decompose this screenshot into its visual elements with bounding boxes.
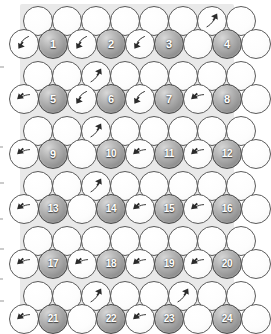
numbered-circle-1[interactable]: 1: [38, 29, 68, 59]
numbered-circle-15[interactable]: 15: [154, 194, 184, 224]
circle-number-label: 15: [164, 204, 175, 214]
circle-number-label: 14: [106, 204, 117, 214]
circle-with-arrow-left[interactable]: [9, 194, 39, 224]
numbered-circle-11[interactable]: 11: [154, 139, 184, 169]
empty-circle[interactable]: [67, 194, 97, 224]
margin-mark: [0, 182, 4, 184]
numbered-circle-4[interactable]: 4: [212, 29, 242, 59]
numbered-circle-18[interactable]: 18: [96, 249, 126, 279]
circle-with-arrow-down-left[interactable]: [125, 84, 155, 114]
arrow-left-icon: [184, 85, 212, 113]
circle-number-label: 24: [222, 314, 233, 324]
arrow-left-icon: [10, 140, 38, 168]
circle-with-arrow-left[interactable]: [183, 194, 213, 224]
numbered-circle-3[interactable]: 3: [154, 29, 184, 59]
arrow-left-icon: [126, 305, 154, 333]
circle-number-label: 22: [106, 314, 117, 324]
numbered-circle-14[interactable]: 14: [96, 194, 126, 224]
empty-circle[interactable]: [241, 139, 271, 169]
numbered-circle-16[interactable]: 16: [212, 194, 242, 224]
circle-with-arrow-left[interactable]: [183, 249, 213, 279]
circle-number-label: 11: [164, 149, 174, 159]
circle-number-label: 17: [48, 259, 59, 269]
circle-number-label: 5: [50, 94, 56, 105]
margin-mark: [0, 300, 4, 302]
circle-with-arrow-left[interactable]: [9, 84, 39, 114]
numbered-circle-24[interactable]: 24: [212, 304, 242, 334]
numbered-circle-10[interactable]: 10: [96, 139, 126, 169]
circle-number-label: 1: [50, 39, 56, 50]
numbered-circle-13[interactable]: 13: [38, 194, 68, 224]
empty-circle[interactable]: [241, 84, 271, 114]
empty-circle[interactable]: [183, 29, 213, 59]
arrow-down-left-icon: [68, 30, 96, 58]
numbered-circle-20[interactable]: 20: [212, 249, 242, 279]
numbered-circle-19[interactable]: 19: [154, 249, 184, 279]
circle-number-label: 13: [48, 204, 59, 214]
circle-with-arrow-left[interactable]: [125, 139, 155, 169]
margin-mark: [0, 146, 3, 148]
circle-number-label: 7: [166, 94, 172, 105]
arrow-left-icon: [184, 195, 212, 223]
circle-with-arrow-left[interactable]: [183, 139, 213, 169]
circle-number-label: 6: [108, 94, 114, 105]
margin-mark: [0, 218, 3, 220]
numbered-circle-12[interactable]: 12: [212, 139, 242, 169]
circle-number-label: 19: [164, 259, 175, 269]
circle-with-arrow-down-left[interactable]: [67, 84, 97, 114]
numbered-circle-17[interactable]: 17: [38, 249, 68, 279]
circle-number-label: 21: [48, 314, 59, 324]
circle-with-arrow-left[interactable]: [67, 249, 97, 279]
circle-number-label: 10: [106, 149, 117, 159]
margin-mark: [0, 278, 3, 280]
empty-circle[interactable]: [241, 249, 271, 279]
arrow-left-icon: [10, 305, 38, 333]
arrow-left-icon: [10, 85, 38, 113]
arrow-left-icon: [10, 195, 38, 223]
circle-with-arrow-left[interactable]: [9, 304, 39, 334]
arrow-down-left-icon: [126, 30, 154, 58]
circle-with-arrow-left[interactable]: [9, 249, 39, 279]
empty-circle[interactable]: [241, 194, 271, 224]
circle-number-label: 20: [222, 259, 233, 269]
numbered-circle-7[interactable]: 7: [154, 84, 184, 114]
numbered-circle-22[interactable]: 22: [96, 304, 126, 334]
arrow-left-icon: [126, 195, 154, 223]
numbered-circle-8[interactable]: 8: [212, 84, 242, 114]
circle-with-arrow-left[interactable]: [125, 249, 155, 279]
circle-with-arrow-left[interactable]: [183, 84, 213, 114]
empty-circle[interactable]: [183, 304, 213, 334]
circle-with-arrow-left[interactable]: [125, 304, 155, 334]
circle-number-label: 8: [224, 94, 230, 105]
circle-with-arrow-down-left[interactable]: [125, 29, 155, 59]
circle-with-arrow-left[interactable]: [125, 194, 155, 224]
empty-circle[interactable]: [241, 304, 271, 334]
arrow-down-left-icon: [10, 30, 38, 58]
circle-with-arrow-down-left[interactable]: [67, 29, 97, 59]
margin-mark: [0, 66, 4, 68]
margin-mark: [0, 248, 4, 250]
numbered-circle-9[interactable]: 9: [38, 139, 68, 169]
arrow-down-left-icon: [68, 85, 96, 113]
circle-with-arrow-down-left[interactable]: [9, 29, 39, 59]
numbered-circle-6[interactable]: 6: [96, 84, 126, 114]
empty-circle[interactable]: [241, 29, 271, 59]
arrow-left-icon: [68, 250, 96, 278]
numbered-circle-2[interactable]: 2: [96, 29, 126, 59]
arrow-left-icon: [184, 140, 212, 168]
circle-number-label: 12: [222, 149, 233, 159]
numbered-circle-21[interactable]: 21: [38, 304, 68, 334]
empty-circle[interactable]: [67, 304, 97, 334]
numbered-circle-23[interactable]: 23: [154, 304, 184, 334]
arrow-left-icon: [184, 250, 212, 278]
circle-number-label: 18: [106, 259, 117, 269]
arrow-down-left-icon: [126, 85, 154, 113]
empty-circle[interactable]: [67, 139, 97, 169]
arrow-left-icon: [126, 250, 154, 278]
circle-number-label: 3: [166, 39, 172, 50]
circle-number-label: 9: [50, 149, 56, 160]
circle-number-label: 16: [222, 204, 233, 214]
numbered-circle-5[interactable]: 5: [38, 84, 68, 114]
circle-with-arrow-left[interactable]: [9, 139, 39, 169]
